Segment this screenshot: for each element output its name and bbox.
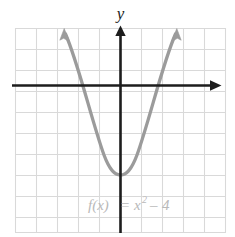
y-axis-arrowhead-icon [115,26,125,37]
x-axis-arrowhead-icon [210,80,222,91]
curve-left-arrowhead-icon [60,29,70,42]
equation-minus: – [149,197,158,213]
equation-exponent: 2 [142,194,147,205]
coordinate-plane: y f(x) = x 2 – 4 [0,0,235,237]
curve-right-arrowhead-icon [172,29,182,42]
equation-lhs: f(x) [88,197,109,214]
y-axis-label: y [115,4,125,23]
graph-figure: y f(x) = x 2 – 4 [0,0,235,237]
equation-constant: 4 [162,197,170,213]
equation-variable: x [133,197,141,213]
equation-equals: = [120,197,130,213]
axes-group [12,26,222,234]
